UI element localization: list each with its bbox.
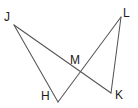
vertex-label-m: M — [70, 54, 80, 66]
vertex-label-h: H — [41, 90, 50, 102]
segment-JK — [14, 25, 111, 93]
segment-JH — [14, 25, 58, 102]
vertex-label-k: K — [115, 89, 123, 101]
vertex-label-j: J — [4, 11, 10, 23]
vertex-label-l: L — [123, 7, 130, 19]
geometry-figure: J L M H K — [0, 0, 138, 108]
